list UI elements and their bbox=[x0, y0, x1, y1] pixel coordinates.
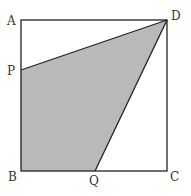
label-q: Q bbox=[89, 174, 99, 188]
label-p: P bbox=[7, 64, 15, 78]
label-c: C bbox=[170, 170, 179, 184]
label-b: B bbox=[8, 170, 17, 184]
geometry-diagram: A D P B Q C bbox=[0, 0, 191, 196]
label-d: D bbox=[171, 9, 181, 23]
shaded-region-pbqd bbox=[21, 20, 167, 171]
label-a: A bbox=[6, 14, 16, 28]
